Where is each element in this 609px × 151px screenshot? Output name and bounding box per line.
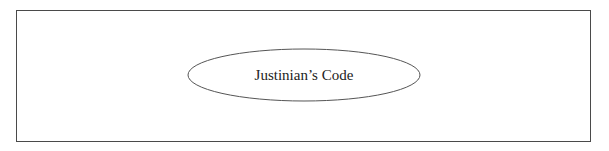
node-label: Justinian’s Code <box>255 67 354 83</box>
diagram-canvas: Justinian’s Code <box>0 0 609 151</box>
node-justinians-code: Justinian’s Code <box>188 49 420 101</box>
